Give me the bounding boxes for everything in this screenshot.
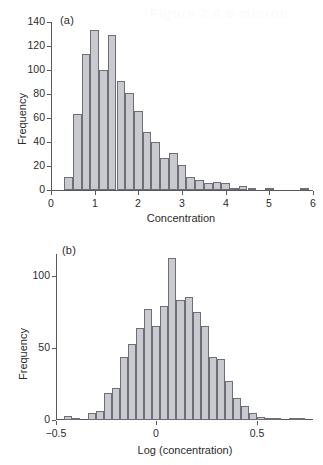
- panel-a-x-tick-label: 3: [162, 197, 202, 209]
- panel-a-y-tick-label: 60: [9, 111, 45, 123]
- histogram-bar: [73, 114, 82, 190]
- panel-b-x-tick-label: −0.5: [36, 427, 76, 439]
- histogram-bar: [143, 132, 152, 190]
- panel-a-x-tick-label: 4: [206, 197, 246, 209]
- histogram-bar: [82, 54, 91, 190]
- histogram-bar: [273, 418, 281, 420]
- panel-a-x-tick: [182, 191, 183, 195]
- histogram-bar: [160, 306, 168, 420]
- histogram-bar: [217, 359, 225, 420]
- histogram-bar: [160, 158, 169, 190]
- histogram-bar: [178, 165, 187, 190]
- panel-b-plot-area: [56, 254, 313, 420]
- panel-a-y-tick: [47, 94, 51, 95]
- histogram-bar: [300, 188, 309, 190]
- panel-a-y-tick-label: 0: [9, 183, 45, 195]
- histogram-bar: [72, 418, 80, 420]
- panel-a-x-tick: [51, 191, 52, 195]
- panel-a-x-tick: [138, 191, 139, 195]
- histogram-bar: [108, 35, 117, 190]
- panel-b-x-tick-label: 0: [136, 427, 176, 439]
- histogram-bar: [152, 326, 160, 420]
- panel-b-y-tick: [52, 348, 56, 349]
- panel-b-x-axis-label: Log (concentration): [100, 444, 270, 456]
- histogram-bar: [151, 142, 160, 190]
- panel-a-y-tick: [47, 166, 51, 167]
- panel-b-x-tick: [56, 421, 57, 425]
- panel-a-x-tick: [95, 191, 96, 195]
- histogram-bar: [201, 326, 209, 420]
- panel-a-x-tick: [269, 191, 270, 195]
- panel-a-x-tick-label: 1: [75, 197, 115, 209]
- panel-a-plot-area: [51, 22, 313, 190]
- histogram-bar: [265, 418, 273, 420]
- panel-a-x-axis-label: Concentration: [106, 212, 256, 224]
- panel-a-y-tick-label: 80: [9, 87, 45, 99]
- histogram-bar: [99, 70, 108, 190]
- histogram-bar: [112, 388, 120, 420]
- histogram-bar: [241, 406, 249, 420]
- histogram-bar: [193, 312, 201, 420]
- histogram-bar: [128, 344, 136, 421]
- chart-panel-a: (a) Frequency Concentration 020406080100…: [0, 0, 323, 232]
- histogram-bar: [120, 357, 128, 421]
- panel-b-y-axis-label: Frequency: [17, 328, 29, 380]
- histogram-bar: [185, 297, 193, 420]
- panel-b-y-tick-label: 100: [14, 269, 50, 281]
- histogram-bar: [186, 177, 195, 190]
- panel-a-x-tick-label: 0: [31, 197, 71, 209]
- histogram-bar: [134, 111, 143, 190]
- panel-a-y-tick: [47, 142, 51, 143]
- histogram-bar: [233, 398, 241, 420]
- histogram-bar: [96, 411, 104, 420]
- panel-a-y-tick-label: 120: [9, 39, 45, 51]
- histogram-bar: [104, 393, 112, 420]
- histogram-bar: [125, 93, 134, 190]
- panel-a-y-tick: [47, 46, 51, 47]
- histogram-bar: [225, 381, 233, 420]
- histogram-bar: [195, 180, 204, 190]
- histogram-bar: [213, 182, 222, 190]
- panel-a-y-tick-label: 140: [9, 15, 45, 27]
- histogram-bar: [230, 188, 239, 190]
- panel-a-x-tick: [226, 191, 227, 195]
- panel-a-y-tick: [47, 118, 51, 119]
- panel-b-y-tick-label: 50: [14, 341, 50, 353]
- histogram-bar: [64, 416, 72, 420]
- histogram-bar: [64, 177, 73, 190]
- figure-container: Figure 2.4 b microb (a) Frequency Concen…: [0, 0, 323, 465]
- histogram-bar: [289, 418, 297, 420]
- histogram-bar: [144, 309, 152, 420]
- panel-b-x-tick: [257, 421, 258, 425]
- histogram-bar: [248, 188, 257, 190]
- panel-b-x-tick-label: 0.5: [237, 427, 277, 439]
- panel-b-y-tick-label: 0: [14, 413, 50, 425]
- panel-a-y-tick-label: 100: [9, 63, 45, 75]
- histogram-bar: [257, 417, 265, 420]
- panel-a-x-tick-label: 2: [118, 197, 158, 209]
- panel-b-x-tick: [156, 421, 157, 425]
- panel-a-x-tick-label: 5: [249, 197, 289, 209]
- chart-panel-b: (b) Frequency Log (concentration) 050100…: [0, 232, 323, 465]
- histogram-bar: [117, 81, 126, 190]
- panel-a-y-tick-label: 40: [9, 135, 45, 147]
- panel-a-y-tick: [47, 22, 51, 23]
- histogram-bar: [297, 418, 305, 420]
- panel-a-x-tick: [313, 191, 314, 195]
- histogram-bar: [221, 183, 230, 190]
- histogram-bar: [265, 188, 274, 190]
- panel-a-y-tick: [47, 70, 51, 71]
- histogram-bar: [168, 258, 176, 420]
- histogram-bar: [176, 300, 184, 420]
- histogram-bar: [209, 357, 217, 421]
- histogram-bar: [90, 30, 99, 190]
- histogram-bar: [169, 153, 178, 190]
- histogram-bar: [88, 413, 96, 420]
- histogram-bar: [204, 183, 213, 190]
- histogram-bar: [239, 186, 248, 190]
- histogram-bar: [136, 328, 144, 420]
- panel-a-y-tick-label: 20: [9, 159, 45, 171]
- histogram-bar: [249, 413, 257, 420]
- panel-a-x-tick-label: 6: [293, 197, 323, 209]
- panel-b-y-tick: [52, 276, 56, 277]
